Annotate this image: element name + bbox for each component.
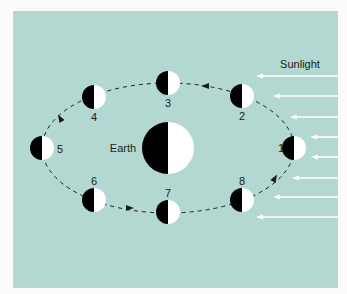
moon-icon xyxy=(230,84,254,108)
moon-position-label: 3 xyxy=(165,97,171,109)
sunlight-arrowhead-icon xyxy=(310,135,317,140)
moon-icon xyxy=(82,85,106,109)
sunlight-label: Sunlight xyxy=(280,58,320,70)
sunlight-arrowhead-icon xyxy=(273,195,280,200)
sunlight-arrowhead-icon xyxy=(273,94,280,99)
orbit-direction-arrow-icon xyxy=(201,83,209,89)
moon-position-label: 4 xyxy=(91,111,97,123)
moon-position-label: 5 xyxy=(57,143,63,155)
moon-icon xyxy=(156,71,180,95)
sunlight-arrowhead-icon xyxy=(292,176,299,181)
sunlight-arrowhead-icon xyxy=(256,74,263,79)
moon-phase-diagram xyxy=(0,0,347,294)
sunlight-arrowhead-icon xyxy=(311,155,318,160)
orbit-direction-arrow-icon xyxy=(270,173,279,183)
moon-icon xyxy=(156,200,180,224)
moon-icon xyxy=(30,136,54,160)
orbit-direction-arrow-icon xyxy=(126,205,134,211)
moon-position-label: 1 xyxy=(278,142,284,154)
moon-position-label: 7 xyxy=(165,187,171,199)
moon-position-label: 8 xyxy=(239,175,245,187)
earth-icon xyxy=(142,122,194,174)
moon-icon xyxy=(282,136,306,160)
moon-position-label: 6 xyxy=(91,175,97,187)
moon-icon xyxy=(82,188,106,212)
moon-position-label: 2 xyxy=(239,110,245,122)
sunlight-arrowhead-icon xyxy=(256,215,263,220)
moon-icon xyxy=(230,188,254,212)
earth-label: Earth xyxy=(110,142,136,154)
sunlight-arrowhead-icon xyxy=(290,115,297,120)
